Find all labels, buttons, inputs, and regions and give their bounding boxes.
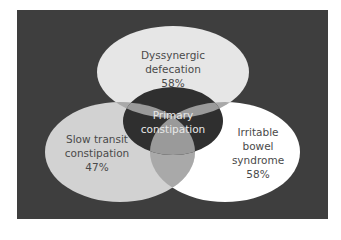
label-irritable-bowel-syndrome: Irritable bowel syndrome 58% <box>208 125 308 181</box>
label-line: Irritable <box>208 125 308 139</box>
label-dyssynergic-defecation: Dyssynergic defecation 58% <box>123 48 223 90</box>
label-primary-constipation: Primary constipation <box>133 108 213 136</box>
label-line: constipation <box>47 146 147 160</box>
label-line: bowel <box>208 139 308 153</box>
label-value: 58% <box>208 167 308 181</box>
label-line: constipation <box>133 122 213 136</box>
label-line: Dyssynergic <box>123 48 223 62</box>
label-value: 47% <box>47 160 147 174</box>
label-slow-transit-constipation: Slow transit constipation 47% <box>47 132 147 174</box>
label-line: syndrome <box>208 153 308 167</box>
label-line: defecation <box>123 62 223 76</box>
label-line: Primary <box>133 108 213 122</box>
label-line: Slow transit <box>47 132 147 146</box>
label-value: 58% <box>123 76 223 90</box>
